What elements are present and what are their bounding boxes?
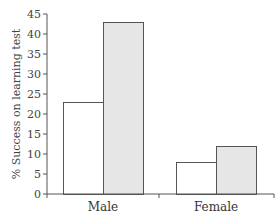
bar-female-series-2 bbox=[217, 147, 257, 195]
x-axis: MaleFemale bbox=[47, 194, 274, 214]
bar-group-female bbox=[177, 147, 257, 195]
x-category-label: Male bbox=[88, 200, 118, 214]
y-tick-label: 0 bbox=[34, 188, 41, 201]
y-tick-label: 40 bbox=[27, 28, 41, 41]
x-category-label: Female bbox=[194, 200, 238, 214]
bar-male-series-2 bbox=[104, 23, 144, 195]
bar-female-series-1 bbox=[177, 163, 217, 195]
y-tick-label: 25 bbox=[27, 88, 41, 101]
bars bbox=[64, 23, 257, 195]
bar-group-male bbox=[64, 23, 144, 195]
y-axis-title: % Success on learning test bbox=[10, 28, 23, 179]
y-tick-label: 10 bbox=[27, 148, 41, 161]
y-tick-label: 20 bbox=[27, 108, 41, 121]
bar-male-series-1 bbox=[64, 103, 104, 195]
y-tick-label: 5 bbox=[34, 168, 41, 181]
y-axis-title-group: % Success on learning test bbox=[10, 28, 23, 179]
y-tick-label: 15 bbox=[27, 128, 41, 141]
y-tick-label: 30 bbox=[27, 68, 41, 81]
y-axis: 051015202530354045 bbox=[27, 8, 47, 201]
bar-chart: % Success on learning test 0510152025303… bbox=[0, 0, 279, 217]
y-tick-label: 45 bbox=[27, 8, 41, 21]
y-tick-label: 35 bbox=[27, 48, 41, 61]
